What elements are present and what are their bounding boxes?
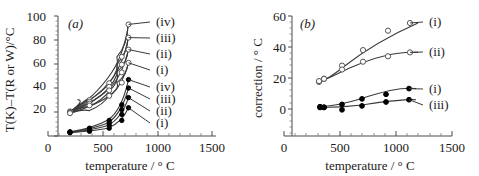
panel-b-plot: correction / ° C 60 40 20 0: [240, 0, 479, 176]
panel-b-ytick-40: 40: [273, 40, 286, 55]
panel-a-y-axis-title: T(K)–T(R or W)/°C: [2, 28, 17, 133]
panel-b-label: (b): [300, 16, 315, 31]
panel-b-xtick-500: 500: [330, 140, 350, 155]
panel-b-series-label-open-i: (i): [429, 14, 441, 29]
panel-b-xtick-0: 0: [281, 140, 288, 155]
panel-a-ytick-20: 20: [33, 101, 46, 116]
panel-a-xtick-1500: 1500: [199, 140, 225, 155]
panel-a-series-label-open-ii: (ii): [156, 46, 172, 61]
panel-a-ytick-80: 80: [33, 32, 46, 47]
figure-container: T(K)–T(R or W)/°C 100 80 60 40 20: [0, 0, 479, 176]
panel-b: correction / ° C 60 40 20 0: [240, 0, 479, 176]
panel-b-filled-curves: [320, 88, 416, 107]
panel-b-ytick-20: 20: [273, 71, 286, 86]
panel-b-ytick-0: 0: [280, 102, 287, 117]
panel-a-series-label-filled-i: (i): [156, 115, 168, 130]
panel-a-series-label-open-i: (i): [156, 62, 168, 77]
panel-a-open-series: [70, 24, 128, 113]
panel-b-x-major-ticks: [284, 131, 452, 136]
panel-b-ytick-60: 60: [273, 9, 286, 24]
panel-a-curve-open-iv: [70, 24, 128, 111]
panel-a-ytick-60: 60: [33, 55, 46, 70]
panel-a-series-label-open-iv: (iv): [156, 14, 175, 29]
panel-a: T(K)–T(R or W)/°C 100 80 60 40 20: [0, 0, 240, 176]
panel-a-xtick-500: 500: [93, 140, 113, 155]
panel-a-ytick-40: 40: [33, 78, 46, 93]
panel-b-x-axis-title: temperature / ° C: [325, 158, 414, 173]
panel-b-open-curves: [320, 23, 418, 82]
panel-b-series-label-filled-i: (i): [429, 81, 441, 96]
panel-b-xtick-1500: 1500: [439, 140, 465, 155]
panel-a-plot: T(K)–T(R or W)/°C 100 80 60 40 20: [0, 0, 240, 176]
panel-b-filled-markers: [318, 86, 412, 112]
panel-b-series-label-filled-iii: (iii): [429, 97, 449, 112]
panel-a-open-iv-path: [70, 24, 129, 111]
panel-a-x-axis-title: temperature / ° C: [85, 158, 174, 173]
panel-a-label: (a): [68, 16, 83, 31]
panel-b-open-markers: [316, 20, 412, 84]
panel-a-leader-lines: [129, 22, 151, 123]
panel-a-xtick-0: 0: [45, 140, 52, 155]
panel-b-y-major-ticks: [288, 16, 292, 109]
panel-b-y-axis-title: correction / ° C: [250, 38, 265, 118]
panel-b-filled-iii-path: [320, 100, 416, 108]
panel-b-leader-lines: [409, 22, 423, 105]
panel-a-xtick-1000: 1000: [145, 140, 171, 155]
panel-b-open-ii-path: [320, 52, 418, 81]
panel-a-ytick-100: 100: [27, 9, 47, 24]
panel-b-xtick-1000: 1000: [383, 140, 409, 155]
panel-b-series-label-open-ii: (ii): [429, 44, 445, 59]
panel-a-series-label-open-iii: (iii): [156, 30, 176, 45]
panel-a-y-major-ticks: [54, 16, 58, 136]
